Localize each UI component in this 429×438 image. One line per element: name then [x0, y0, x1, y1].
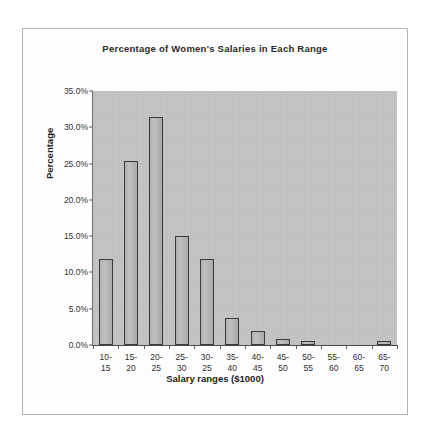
x-axis-title: Salary ranges ($1000) [23, 373, 407, 384]
x-axis-tick-mark [118, 345, 119, 349]
bar[interactable] [377, 341, 391, 345]
bar-slot [169, 91, 194, 345]
plot-area: 0.0%5.0%10.0%15.0%20.0%25.0%30.0%35.0% 1… [92, 91, 397, 346]
y-axis-tick-label: 30.0% [64, 122, 88, 132]
y-axis-tick-label: 15.0% [64, 231, 88, 241]
x-axis-tick-label: 55-60 [328, 352, 340, 374]
x-axis-tick-label: 35-40 [226, 352, 238, 374]
y-axis-tick-mark [89, 272, 93, 273]
bar[interactable] [225, 318, 239, 345]
y-axis-tick-mark [89, 308, 93, 309]
bar[interactable] [99, 259, 113, 345]
x-axis-tick-mark [346, 345, 347, 349]
x-axis-tick-mark [169, 345, 170, 349]
y-axis-tick-label: 20.0% [64, 195, 88, 205]
bar-slot [346, 91, 371, 345]
x-axis-tick-mark [321, 345, 322, 349]
x-axis-tick-label: 45-50 [277, 352, 289, 374]
x-axis-tick-mark [372, 345, 373, 349]
x-axis-tick-label: 60-65 [353, 352, 365, 374]
x-axis-tick-label: 65-70 [378, 352, 390, 374]
x-axis-tick-label: 30-25 [201, 352, 213, 374]
x-axis-tick-mark [194, 345, 195, 349]
x-axis-tick-mark [93, 345, 94, 349]
y-axis-tick-mark [89, 163, 93, 164]
bar[interactable] [175, 236, 189, 345]
y-axis-tick-label: 25.0% [64, 159, 88, 169]
bar-slot [144, 91, 169, 345]
bar-slot [321, 91, 346, 345]
y-axis-tick-label: 0.0% [69, 340, 88, 350]
x-axis-tick-mark [144, 345, 145, 349]
bar-slot [245, 91, 270, 345]
x-axis-tick-mark [220, 345, 221, 349]
x-axis-tick-label: 50-55 [302, 352, 314, 374]
bar-slot [270, 91, 295, 345]
bar-slot [93, 91, 118, 345]
x-axis-tick-mark [270, 345, 271, 349]
y-axis-tick-mark [89, 127, 93, 128]
chart-figure-frame: Percentage of Women's Salaries in Each R… [22, 28, 408, 415]
x-axis-tick-label: 25-30 [176, 352, 188, 374]
bar-slot [296, 91, 321, 345]
y-axis-tick-label: 10.0% [64, 267, 88, 277]
y-axis-title: Percentage [44, 128, 55, 179]
x-axis-tick-label: 40-45 [252, 352, 264, 374]
x-axis-tick-label: 15-20 [125, 352, 137, 374]
y-axis-tick-label: 35.0% [64, 86, 88, 96]
bar-slot [220, 91, 245, 345]
bar[interactable] [149, 117, 163, 345]
y-axis-tick-mark [89, 91, 93, 92]
bar-slot [118, 91, 143, 345]
y-axis-tick-mark [89, 236, 93, 237]
bar-slot [194, 91, 219, 345]
plot-texture-overlay [93, 91, 397, 345]
bar[interactable] [301, 341, 315, 345]
bar-slot [372, 91, 397, 345]
y-axis-tick-label: 5.0% [69, 304, 88, 314]
bar[interactable] [124, 161, 138, 345]
x-axis-tick-label: 20-25 [150, 352, 162, 374]
x-axis-tick-mark [245, 345, 246, 349]
bar[interactable] [251, 331, 265, 346]
chart-title: Percentage of Women's Salaries in Each R… [23, 43, 407, 54]
y-axis-tick-mark [89, 199, 93, 200]
x-axis-tick-mark [296, 345, 297, 349]
bar[interactable] [276, 339, 290, 345]
x-axis-tick-mark [397, 345, 398, 349]
bar[interactable] [200, 259, 214, 345]
x-axis-tick-label: 10-15 [100, 352, 112, 374]
